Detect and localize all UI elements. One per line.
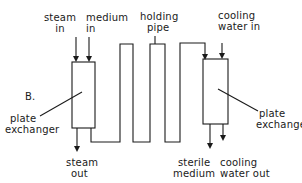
steam-out-label-line2: out xyxy=(66,168,98,179)
right-exchanger-leader xyxy=(218,89,258,111)
right-plate-exchanger-label: plate exchanger xyxy=(256,108,302,130)
cooling-water-in-label-line2: water in xyxy=(218,21,260,32)
steam-in-label-line1: steam xyxy=(42,12,78,23)
left-plate-exchanger-label-line1: plate xyxy=(5,113,59,124)
holding-pipe xyxy=(91,43,205,142)
cooling-water-out-label-line1: cooling xyxy=(220,157,270,168)
cooling-water-out-label: cooling water out xyxy=(220,157,270,179)
cooling-water-in-label-line1: cooling xyxy=(218,10,260,21)
sterile-medium-label: sterile medium xyxy=(173,157,215,179)
medium-in-label: medium in xyxy=(86,12,128,34)
panel-label: B. xyxy=(25,91,35,102)
left-plate-exchanger-label: plate exchanger xyxy=(5,113,59,135)
medium-in-label-line1: medium xyxy=(86,12,128,23)
sterile-medium-label-line2: medium xyxy=(173,168,215,179)
steam-in-label-line2: in xyxy=(42,23,78,34)
cooling-water-in-label: cooling water in xyxy=(218,10,260,32)
steam-out-label-line1: steam xyxy=(66,157,98,168)
right-plate-exchanger xyxy=(203,59,228,124)
left-plate-exchanger-label-line2: exchanger xyxy=(5,124,59,135)
medium-in-label-line2: in xyxy=(86,23,128,34)
holding-pipe-label: holding pipe xyxy=(140,11,178,33)
right-plate-exchanger-label-line2: exchanger xyxy=(256,119,302,130)
steam-out-label: steam out xyxy=(66,157,98,179)
sterile-medium-label-line1: sterile xyxy=(173,157,215,168)
holding-pipe-label-line1: holding xyxy=(140,11,178,22)
right-plate-exchanger-label-line1: plate xyxy=(256,108,302,119)
cooling-water-out-label-line2: water out xyxy=(220,168,270,179)
holding-pipe-label-line2: pipe xyxy=(140,22,178,33)
left-plate-exchanger xyxy=(72,62,95,128)
steam-in-label: steam in xyxy=(42,12,78,34)
